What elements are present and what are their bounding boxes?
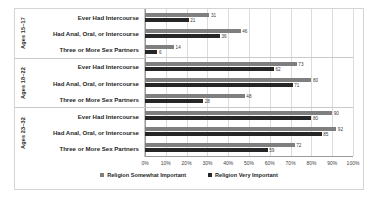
bar-value-label: 73 [297, 61, 304, 66]
bar-value-label: 14 [174, 44, 181, 49]
bar-row: 4636 [145, 25, 353, 41]
bar-group: 31214636146 [145, 9, 353, 58]
bar-somewhat[interactable] [145, 111, 332, 115]
bar-value-label: 31 [209, 12, 216, 17]
bar-row: 7259 [145, 140, 353, 156]
category-label: Ever Had Intercourse [31, 108, 144, 124]
legend: Religion Somewhat ImportantReligion Very… [15, 172, 363, 178]
category-label: Ever Had Intercourse [31, 59, 144, 75]
bar-very[interactable] [145, 83, 293, 87]
category-label-column: Ever Had IntercourseHad Anal, Oral, or I… [31, 9, 145, 157]
bar-very[interactable] [145, 99, 203, 103]
category-label: Had Anal, Oral, or Intercourse [31, 25, 144, 41]
age-group-label: Ages 18–22 [20, 67, 26, 99]
bar-very[interactable] [145, 34, 220, 38]
bar-very[interactable] [145, 50, 157, 54]
bar-rows: 31214636146736280714828908092857259 [145, 9, 353, 156]
bar-row: 9285 [145, 124, 353, 140]
legend-label: Religion Very Important [215, 172, 278, 178]
bar-value-label: 36 [220, 33, 227, 38]
bar-wrapper: 59 [145, 148, 353, 152]
bar-somewhat[interactable] [145, 13, 209, 17]
bar-wrapper: 80 [145, 116, 353, 120]
bar-very[interactable] [145, 132, 322, 136]
legend-item[interactable]: Religion Somewhat Important [100, 172, 186, 178]
bar-row: 146 [145, 41, 353, 57]
age-group-cell: Ages 15–17 [15, 9, 31, 59]
x-axis-tick: 0% [141, 160, 148, 166]
category-label: Ever Had Intercourse [31, 9, 144, 25]
bar-value-label: 71 [293, 82, 300, 87]
bar-wrapper: 31 [145, 13, 353, 17]
bar-row: 7362 [145, 58, 353, 74]
bar-value-label: 21 [189, 17, 196, 22]
category-label: Three or More Sex Partners [31, 141, 144, 157]
legend-swatch-icon [100, 173, 104, 177]
bar-wrapper: 36 [145, 34, 353, 38]
bar-wrapper: 92 [145, 127, 353, 131]
category-label: Had Anal, Oral, or Intercourse [31, 125, 144, 141]
bar-wrapper: 71 [145, 83, 353, 87]
legend-swatch-icon [208, 173, 212, 177]
age-group-label: Ages 23–32 [20, 117, 26, 149]
bar-value-label: 46 [241, 28, 248, 33]
bar-value-label: 59 [268, 148, 275, 153]
bar-value-label: 80 [311, 77, 318, 82]
bar-value-label: 6 [157, 49, 161, 54]
bar-very[interactable] [145, 148, 268, 152]
bar-very[interactable] [145, 116, 311, 120]
bar-value-label: 72 [295, 143, 302, 148]
bar-somewhat[interactable] [145, 127, 336, 131]
bar-value-label: 92 [336, 127, 343, 132]
x-axis-tick: 50% [244, 160, 254, 166]
bar-wrapper: 14 [145, 45, 353, 49]
x-axis-tick: 10% [161, 160, 171, 166]
bar-wrapper: 48 [145, 94, 353, 98]
bar-wrapper: 85 [145, 132, 353, 136]
age-group-cell: Ages 18–22 [15, 59, 31, 109]
bar-wrapper: 46 [145, 29, 353, 33]
x-axis-tick: 70% [286, 160, 296, 166]
bar-somewhat[interactable] [145, 94, 245, 98]
bar-somewhat[interactable] [145, 78, 311, 82]
x-axis-tick: 80% [306, 160, 316, 166]
bar-wrapper: 80 [145, 78, 353, 82]
bar-group: 908092857259 [145, 108, 353, 156]
x-axis-tick: 20% [182, 160, 192, 166]
bar-row: 4828 [145, 91, 353, 107]
category-group: Ever Had IntercourseHad Anal, Oral, or I… [31, 108, 144, 157]
bar-value-label: 48 [245, 94, 252, 99]
bar-wrapper: 72 [145, 143, 353, 147]
bar-wrapper: 90 [145, 111, 353, 115]
category-group: Ever Had IntercourseHad Anal, Oral, or I… [31, 9, 144, 59]
category-group: Ever Had IntercourseHad Anal, Oral, or I… [31, 59, 144, 109]
bar-value-label: 85 [322, 132, 329, 137]
x-axis: 0%10%20%30%40%50%60%70%80%90%100% [145, 158, 353, 170]
bar-somewhat[interactable] [145, 62, 297, 66]
bar-somewhat[interactable] [145, 29, 241, 33]
category-label: Three or More Sex Partners [31, 41, 144, 57]
x-axis-tick: 60% [265, 160, 275, 166]
bar-group: 736280714828 [145, 58, 353, 107]
bar-somewhat[interactable] [145, 143, 295, 147]
bar-row: 8071 [145, 74, 353, 90]
bar-very[interactable] [145, 67, 274, 71]
legend-label: Religion Somewhat Important [107, 172, 186, 178]
category-label: Three or More Sex Partners [31, 91, 144, 107]
bar-somewhat[interactable] [145, 45, 174, 49]
bar-value-label: 62 [274, 66, 281, 71]
bar-row: 9080 [145, 108, 353, 124]
bar-wrapper: 62 [145, 67, 353, 71]
bar-very[interactable] [145, 18, 189, 22]
plot-area: 31214636146736280714828908092857259 [145, 9, 353, 157]
x-axis-tick: 40% [223, 160, 233, 166]
age-group-label: Ages 15–17 [20, 17, 26, 49]
x-axis-tick: 90% [327, 160, 337, 166]
x-axis-tick: 100% [347, 160, 360, 166]
bar-wrapper: 21 [145, 18, 353, 22]
legend-item[interactable]: Religion Very Important [208, 172, 278, 178]
bar-wrapper: 28 [145, 99, 353, 103]
bar-row: 3121 [145, 9, 353, 25]
gridline [353, 9, 354, 156]
age-group-cell: Ages 23–32 [15, 108, 31, 157]
